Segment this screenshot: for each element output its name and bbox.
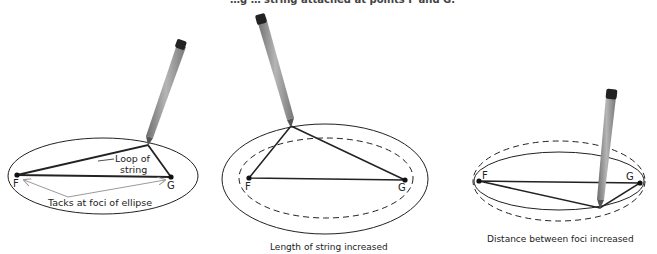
pencil-icon (255, 13, 294, 128)
tacks-label: Tacks at foci of ellipse (48, 197, 152, 208)
string-loop (249, 126, 405, 180)
focus-G-tack (637, 180, 642, 185)
focus-F-tack (246, 175, 251, 180)
loop-of-string-label-line2: string (120, 164, 147, 175)
loop-of-string-label-line1: Loop of (115, 153, 150, 164)
focus-F-tack (476, 178, 481, 183)
focus-G-label: G (167, 180, 175, 191)
ellipse-diagrams (0, 0, 657, 254)
focus-G-tack (168, 174, 173, 179)
focus-F-label: F (482, 170, 488, 181)
pencil-icon (146, 39, 187, 146)
pencil-icon (597, 89, 617, 209)
diagram-longer-string (222, 13, 428, 234)
focus-F-label: F (245, 181, 251, 192)
string-loop (479, 181, 640, 208)
focus-F-tack (14, 172, 19, 177)
focus-F-label: F (13, 178, 19, 189)
caption-wider-foci: Distance between foci increased (487, 234, 634, 244)
focus-G-label: G (398, 182, 406, 193)
caption-longer-string: Length of string increased (270, 242, 388, 252)
focus-G-label: G (626, 171, 634, 182)
diagram-wider-foci (473, 89, 645, 221)
